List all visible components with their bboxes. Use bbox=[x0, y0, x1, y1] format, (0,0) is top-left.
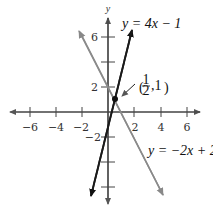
annotation-arrow bbox=[122, 84, 135, 96]
graph: −6 −4 −2 2 4 6 6 2 −2 y ( 1 2 ,1 ) y = 4… bbox=[0, 0, 213, 207]
equation-label-line1: y = 4x − 1 bbox=[120, 16, 181, 31]
point-fraction-denominator: 2 bbox=[143, 83, 150, 98]
y-tick-n2: −2 bbox=[85, 131, 101, 144]
point-label: ( 1 2 ,1 ) bbox=[139, 72, 169, 98]
y-axis-label: y bbox=[105, 3, 111, 14]
x-tick-6: 6 bbox=[184, 121, 191, 134]
x-tick-n4: −4 bbox=[48, 121, 64, 134]
x-tick-n6: −6 bbox=[22, 121, 38, 134]
svg-text:): ) bbox=[164, 80, 169, 96]
intersection-point bbox=[112, 96, 118, 102]
x-tick-4: 4 bbox=[158, 121, 165, 134]
equation-label-line2: y = −2x + 2 bbox=[146, 143, 213, 158]
y-tick-6: 6 bbox=[91, 31, 98, 44]
x-axis bbox=[10, 107, 200, 117]
y-tick-2: 2 bbox=[91, 81, 98, 94]
point-y-value: ,1 bbox=[151, 78, 162, 93]
x-tick-2: 2 bbox=[132, 121, 139, 134]
